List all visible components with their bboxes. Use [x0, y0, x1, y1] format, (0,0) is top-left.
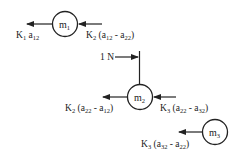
- force-label-k3-on-m2: K3 (a22 - a32): [160, 103, 208, 114]
- mass-3-group: m3 K3 (a32 - a22): [141, 120, 228, 151]
- force-label-k3-on-m3: K3 (a32 - a22): [141, 139, 189, 150]
- applied-force-label: 1 N: [100, 52, 114, 62]
- force-label-k1: K1 a12: [16, 30, 39, 41]
- mass-2-group: m2 K2 (a22 - a12) K3 (a22 - a32): [65, 85, 208, 115]
- mass-1-group: m1 K1 a12 K2 (a12 - a22): [16, 12, 134, 42]
- applied-force-group: 1 N: [100, 51, 140, 84]
- force-label-k2-on-m2: K2 (a22 - a12): [65, 103, 113, 114]
- free-body-diagram: m1 K1 a12 K2 (a12 - a22) 1 N m2 K2 (a22 …: [0, 0, 235, 165]
- force-label-k2-on-m1: K2 (a12 - a22): [86, 30, 134, 41]
